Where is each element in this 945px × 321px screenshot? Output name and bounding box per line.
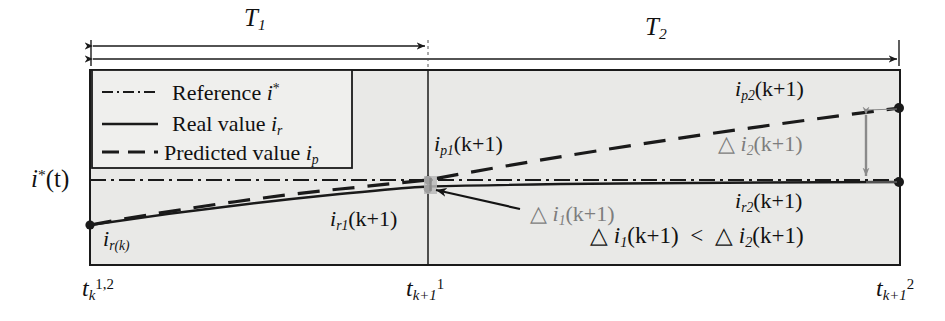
inequality-label: △ i1(k+1) < △ i2(k+1) <box>590 224 804 247</box>
marker-right-ip2 <box>894 103 904 113</box>
mid-predicted-label: ip1(k+1) <box>434 133 503 155</box>
figure-canvas: T1 T2 Reference i* Real value ir Predict… <box>0 0 945 321</box>
right-real-label: ir2(k+1) <box>735 190 802 212</box>
time-tick-0: tk1,2 <box>82 276 114 300</box>
reference-level-label: i*(t) <box>31 166 69 191</box>
interval-t1-label: T1 <box>244 5 266 30</box>
legend-entry-predicted: Predicted value ip <box>164 140 319 166</box>
legend-entry-reference: Reference i* <box>172 80 280 106</box>
interval-t2-label: T2 <box>645 14 667 39</box>
right-predicted-label: ip2(k+1) <box>735 78 804 100</box>
marker-start-ir-k <box>85 220 94 229</box>
start-point-label: ir(k) <box>103 228 130 250</box>
delta-i2-label: △ i2(k+1) <box>718 133 803 155</box>
time-tick-2: tk+12 <box>876 276 914 300</box>
diagram-svg <box>0 0 945 321</box>
delta-i1-label: △ i1(k+1) <box>530 203 615 225</box>
time-tick-1: tk+11 <box>406 276 444 300</box>
mid-real-label: ir1(k+1) <box>330 208 397 230</box>
legend-entry-real: Real value ir <box>172 111 282 137</box>
